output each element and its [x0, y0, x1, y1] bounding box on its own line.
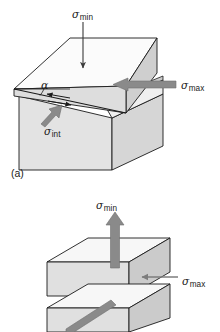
panel-tag-a: (a)	[11, 168, 24, 179]
sigma-max-label-a: σmax	[181, 76, 204, 93]
sigma-int-label-a: σint	[44, 122, 61, 139]
sigma-max-subscript-b: max	[189, 280, 205, 289]
sigma-min-subscript-b: min	[103, 204, 117, 213]
sigma-min-label-a: σmin	[72, 5, 93, 22]
panel-a-geometry	[14, 22, 176, 170]
sigma-int-subscript-a: int	[51, 130, 60, 139]
alpha-angle-label: α	[41, 80, 48, 91]
panel-b-geometry	[47, 212, 178, 332]
sigma-max-label-b: σmax	[182, 272, 205, 289]
sigma-min-subscript-a: min	[79, 13, 93, 22]
sigma-min-label-b: σmin	[96, 196, 117, 213]
figure-root: σmin σmax σint α (a) σmin σmax	[0, 0, 220, 332]
sigma-max-subscript-a: max	[188, 84, 204, 93]
